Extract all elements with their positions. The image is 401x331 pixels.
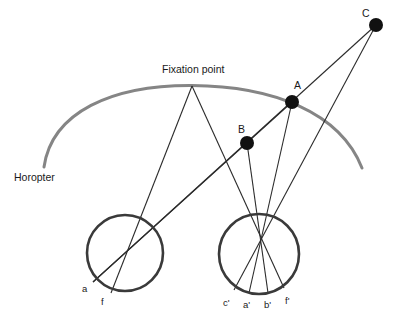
ray-C-to-right-eye <box>234 25 376 290</box>
object-point-labels: ABC <box>238 7 370 135</box>
object-point-label-b: B <box>238 123 245 135</box>
horopter-label: Horopter <box>14 171 55 183</box>
object-point-label-c: C <box>362 7 370 19</box>
right-retinal-labels: c'a'b'f' <box>223 295 290 310</box>
horopter-diagram: Horopter Fixation point ABC af c'a'b'f' <box>0 0 401 331</box>
left-retinal-labels: af <box>82 283 104 307</box>
object-point-a <box>285 95 299 109</box>
ray-B-to-right-eye <box>247 143 268 293</box>
diagram-canvas: Horopter Fixation point ABC af c'a'b'f' <box>0 0 401 331</box>
ray-A-to-right-eye <box>249 102 292 293</box>
retinal-label-f: f <box>101 296 104 307</box>
object-point-b <box>240 136 254 150</box>
retinal-label-a-prime: a' <box>243 299 250 310</box>
projection-rays <box>93 25 376 293</box>
ray-C-to-A-and-left-eye <box>93 25 376 282</box>
ray-fixation-to-right-eye <box>192 86 284 288</box>
retinal-label-a: a <box>82 283 88 294</box>
retinal-label-b-prime: b' <box>264 299 271 310</box>
object-point-c <box>369 18 383 32</box>
retinal-label-f-prime: f' <box>285 295 290 306</box>
fixation-point-label: Fixation point <box>162 63 225 75</box>
ray-fixation-to-left-eye <box>111 86 192 293</box>
retinal-label-c-prime: c' <box>223 297 230 308</box>
horopter-arc <box>44 85 362 168</box>
object-point-label-a: A <box>294 79 301 91</box>
eye-circles <box>87 214 299 294</box>
